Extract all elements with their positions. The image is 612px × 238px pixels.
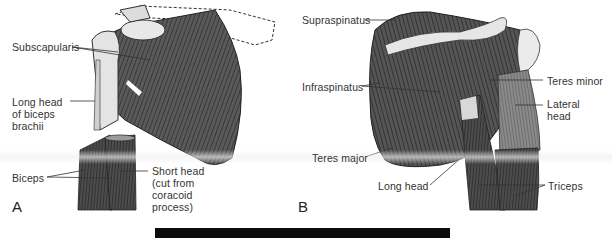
scan-haze xyxy=(0,150,612,164)
label-teres-major: Teres major xyxy=(312,152,368,164)
label-subscapularis: Subscapularis xyxy=(12,41,79,53)
anatomy-figure: Subscapularis Long head of biceps brachi… xyxy=(0,0,612,238)
scan-edge-bar xyxy=(155,228,450,238)
label-supraspinatus: Supraspinatus xyxy=(302,14,370,26)
label-teres-minor: Teres minor xyxy=(547,75,603,87)
label-long-head: Long head xyxy=(378,180,429,192)
panel-letter-b: B xyxy=(298,198,308,215)
label-lateral-head: Lateral head xyxy=(547,98,580,122)
label-triceps: Triceps xyxy=(548,180,583,192)
panel-letter-a: A xyxy=(12,198,22,215)
label-infraspinatus: Infraspinatus xyxy=(302,81,363,93)
label-short-head: Short head (cut from coracoid process) xyxy=(152,165,204,213)
label-long-head-biceps: Long head of biceps brachii xyxy=(12,96,63,132)
label-biceps: Biceps xyxy=(12,172,44,184)
